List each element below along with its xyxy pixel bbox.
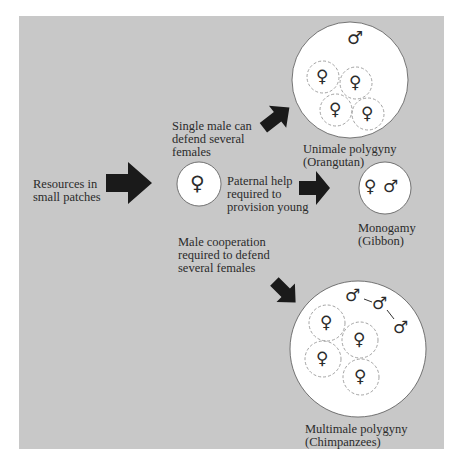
- female-symbol-icon: ♀: [364, 176, 376, 196]
- male-symbol-icon: ♂: [383, 176, 398, 196]
- condition-multimale-line3: several females: [178, 262, 255, 275]
- male-symbol-icon: ♂: [345, 285, 360, 305]
- female-symbol-icon: ♀: [316, 348, 328, 368]
- condition-unimale-line3: females: [172, 146, 211, 159]
- condition-monogamy-line3: provision young: [227, 201, 309, 214]
- female-symbol-icon: ♀: [354, 366, 366, 386]
- male-symbol-icon: ♂: [347, 28, 363, 48]
- arrow-to-unimale: [255, 97, 298, 139]
- female-symbol-icon: ♀: [353, 329, 365, 349]
- outcome-monogamy-line2: (Gibbon): [358, 235, 404, 248]
- female-symbol-icon: ♀: [349, 72, 361, 92]
- resources-label-line2: small patches: [33, 191, 101, 204]
- male-symbol-icon: ♂: [372, 293, 387, 313]
- female-symbol-icon: ♀: [361, 103, 373, 123]
- female-symbol-icon: ♀: [190, 172, 205, 194]
- female-symbol-icon: ♀: [320, 312, 332, 332]
- outcome-multimale-line2: (Chimpanzees): [305, 436, 381, 449]
- male-symbol-icon: ♂: [393, 317, 408, 337]
- female-symbol-icon: ♀: [316, 66, 328, 86]
- outcome-unimale-line2: (Orangutan): [303, 156, 364, 169]
- arrow-to-multimale: [265, 272, 305, 312]
- female-symbol-icon: ♀: [329, 99, 341, 119]
- arrow-resources-to-female: [106, 162, 152, 204]
